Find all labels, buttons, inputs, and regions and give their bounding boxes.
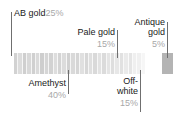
- callout-pale-gold: Pale gold 15%: [62, 27, 115, 49]
- leader-line-off-white: [140, 70, 141, 112]
- callout-antique-gold-name-line1: Antique: [122, 17, 165, 27]
- callout-antique-gold: Antique gold 5%: [122, 17, 165, 49]
- callout-off-white-name-line2: white: [104, 86, 138, 96]
- callout-amethyst: Amethyst 40%: [14, 78, 66, 100]
- callout-ab-gold: AB gold25%: [14, 6, 64, 18]
- bead-strip: [14, 53, 145, 74]
- leader-line-pale-gold: [117, 30, 118, 58]
- bead-palette-diagram: AB gold25% Pale gold 15% Antique gold 5%…: [0, 0, 180, 118]
- leader-line-amethyst: [68, 70, 69, 94]
- callout-ab-gold-name: AB gold: [14, 8, 46, 18]
- callout-amethyst-percent: 40%: [48, 90, 66, 100]
- callout-off-white-percent: 15%: [120, 98, 138, 108]
- callout-amethyst-name: Amethyst: [14, 78, 66, 88]
- callout-ab-gold-percent: 25%: [46, 8, 64, 18]
- callout-antique-gold-percent: 5%: [152, 39, 165, 49]
- leader-line-antique-gold: [167, 22, 168, 58]
- leader-line-ab-gold: [11, 12, 12, 56]
- callout-pale-gold-name: Pale gold: [62, 27, 115, 37]
- callout-pale-gold-percent: 15%: [97, 39, 115, 49]
- callout-antique-gold-name-line2: gold: [122, 27, 165, 37]
- callout-off-white: Off- white 15%: [104, 76, 138, 108]
- bead-segment: [142, 53, 145, 74]
- callout-off-white-name-line1: Off-: [104, 76, 138, 86]
